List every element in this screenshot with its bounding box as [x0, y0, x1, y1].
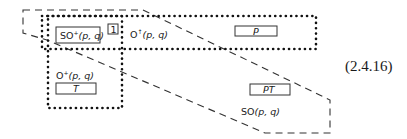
p-label: P	[253, 26, 259, 37]
o-plus-down-label: O+(p, q)	[56, 69, 94, 81]
pt-label: PT	[263, 84, 276, 95]
so-full-label: SO(p, q)	[241, 106, 280, 117]
so-plus-label: SO+(p, q)	[60, 29, 104, 41]
marker-label: 1	[111, 24, 117, 35]
group-component-diagram: SO+(p, q) 1 O↑(p, q) P O+(p, q) T PT SO(…	[0, 0, 407, 139]
o-up-label: O↑(p, q)	[130, 28, 168, 40]
equation-number: (2.4.16)	[345, 58, 393, 75]
